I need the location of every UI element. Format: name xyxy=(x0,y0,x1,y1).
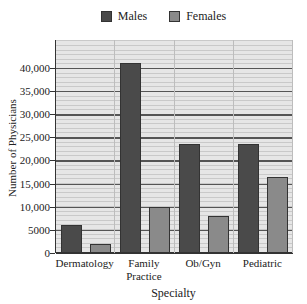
y-tick-label: 20,000 xyxy=(0,154,50,166)
x-axis-title: Specialty xyxy=(0,286,307,301)
bar-females-family-practice xyxy=(149,207,170,253)
y-tick-label: 35,000 xyxy=(0,85,50,97)
bar-males-family-practice xyxy=(120,63,141,253)
legend-label-males: Males xyxy=(118,9,147,24)
y-tick-label: 0 xyxy=(0,247,50,259)
y-tick-label: 5000 xyxy=(0,224,50,236)
bar-females-pediatric xyxy=(267,177,288,253)
x-tick-label: Pediatric xyxy=(227,257,297,270)
vertical-gridline xyxy=(233,40,234,253)
major-gridline xyxy=(56,137,293,139)
legend-label-females: Females xyxy=(186,9,226,24)
females-swatch xyxy=(169,11,180,22)
legend-item-females: Females xyxy=(169,9,226,24)
males-swatch xyxy=(101,11,112,22)
y-tick-label: 25,000 xyxy=(0,131,50,143)
bar-females-ob-gyn xyxy=(208,216,229,253)
bar-males-ob-gyn xyxy=(179,144,200,253)
y-tick-label: 10,000 xyxy=(0,201,50,213)
bar-males-pediatric xyxy=(238,144,259,253)
vertical-gridline xyxy=(174,40,175,253)
legend-item-males: Males xyxy=(101,9,147,24)
y-tick-mark xyxy=(50,253,55,254)
bar-males-dermatology xyxy=(61,225,82,253)
y-tick-label: 40,000 xyxy=(0,62,50,74)
plot-area xyxy=(55,40,293,253)
bar-females-dermatology xyxy=(90,244,111,253)
major-gridline xyxy=(56,91,293,93)
vertical-gridline xyxy=(292,40,293,253)
major-gridline xyxy=(56,68,293,70)
major-gridline xyxy=(56,114,293,116)
y-tick-label: 15,000 xyxy=(0,178,50,190)
y-tick-label: 30,000 xyxy=(0,108,50,120)
vertical-gridline xyxy=(114,40,115,253)
legend: Males Females xyxy=(0,9,307,24)
